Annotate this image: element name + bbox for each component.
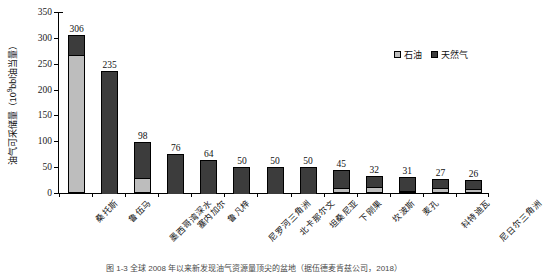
stacked-bar[interactable]: 31 <box>399 177 416 193</box>
x-axis-label: 尼日尔三角洲 <box>497 196 544 244</box>
bar-segment-gas <box>102 72 117 194</box>
stacked-bar[interactable]: 50 <box>300 167 317 193</box>
bar-segment-gas <box>466 181 481 189</box>
x-axis-label: 下刚果 <box>356 196 384 224</box>
y-tick-mark <box>54 167 58 168</box>
x-axis-label: 科特迪瓦 <box>458 196 493 231</box>
y-tick-mark <box>54 12 58 13</box>
y-tick-label: 150 <box>38 110 52 120</box>
legend-swatch-oil-icon <box>394 51 401 58</box>
y-tick-label: 50 <box>43 162 53 172</box>
bar-value-label: 27 <box>436 168 446 178</box>
bar-segment-gas <box>201 161 216 194</box>
bar-value-label: 64 <box>204 149 214 159</box>
stacked-bar[interactable]: 76 <box>167 154 184 193</box>
bar-slot[interactable]: 50 <box>300 167 317 193</box>
bar-segment-oil <box>367 187 382 192</box>
stacked-bar[interactable]: 27 <box>432 179 449 193</box>
x-axis-label: 坎波斯 <box>389 196 417 224</box>
legend-item-oil[interactable]: 石油 <box>394 48 422 61</box>
bar-slot[interactable]: 64 <box>200 160 217 193</box>
y-tick-label: 0 <box>47 188 52 198</box>
bar-segment-gas <box>301 168 316 194</box>
bar-segment-gas <box>234 168 249 194</box>
bar-segment-oil <box>69 55 84 192</box>
bar-slot[interactable]: 31 <box>399 177 416 193</box>
bar-slot[interactable]: 306 <box>68 35 85 193</box>
bar-value-label: 32 <box>369 165 379 175</box>
x-axis-label: 鲁伍马 <box>125 196 153 224</box>
y-axis-title-suffix: bbl油当量） <box>8 41 18 89</box>
bar-segment-gas <box>69 36 84 56</box>
y-tick-mark <box>54 193 58 194</box>
x-axis-label: 麦孔 <box>420 196 442 218</box>
bar-slot[interactable]: 45 <box>333 170 350 193</box>
legend-item-gas[interactable]: 天然气 <box>431 48 468 61</box>
x-axis-label: 鲁凡梓 <box>224 196 252 224</box>
bar-segment-gas <box>400 178 415 191</box>
y-axis-title: 油气可采储量（109bbl油当量） <box>6 41 19 166</box>
bar-slot[interactable]: 27 <box>432 179 449 193</box>
legend-label-oil: 石油 <box>404 48 422 61</box>
y-tick-label: 200 <box>38 85 52 95</box>
bar-value-label: 50 <box>237 156 247 166</box>
bar-value-label: 26 <box>469 169 479 179</box>
bar-value-label: 76 <box>171 143 181 153</box>
y-tick-mark <box>54 141 58 142</box>
y-axis-title-exponent: 9 <box>6 89 13 93</box>
bar-slot[interactable]: 235 <box>101 71 118 193</box>
bar-value-label: 31 <box>403 166 413 176</box>
stacked-bar[interactable]: 32 <box>366 176 383 193</box>
bar-segment-oil <box>135 178 150 192</box>
bar-segment-oil <box>400 191 415 192</box>
stacked-bar[interactable]: 50 <box>233 167 250 193</box>
bar-segment-oil <box>334 188 349 192</box>
y-tick-label: 100 <box>38 136 52 146</box>
bar-slot[interactable]: 50 <box>267 167 284 193</box>
stacked-bar[interactable]: 45 <box>333 170 350 193</box>
legend: 石油 天然气 <box>394 48 468 61</box>
bar-segment-gas <box>433 180 448 188</box>
bar-segment-oil <box>466 189 481 192</box>
bar-value-label: 45 <box>336 159 346 169</box>
bar-slot[interactable]: 26 <box>465 180 482 193</box>
y-tick-mark <box>54 64 58 65</box>
stacked-bar[interactable]: 50 <box>267 167 284 193</box>
x-axis-labels: 桑托斯鲁伍马墨西哥湾深水塞内加尔鲁凡梓尼罗河三角洲北卡那尔文坦桑尼亚下刚果坎波斯… <box>58 196 488 256</box>
legend-swatch-gas-icon <box>431 51 438 58</box>
x-axis-label: 桑托斯 <box>92 196 120 224</box>
stacked-bar[interactable]: 98 <box>134 142 151 193</box>
bar-value-label: 50 <box>270 156 280 166</box>
stacked-bar[interactable]: 306 <box>68 35 85 193</box>
y-tick-label: 350 <box>38 7 52 17</box>
figure-caption: 图 1-3 全球 2008 年以来新发现油气资源量顶尖的盆地（据伍德麦肯兹公司，… <box>0 262 508 272</box>
plot-area: 050100150200250300350 油气可采储量（109bbl油当量） … <box>58 12 488 194</box>
bar-slot[interactable]: 76 <box>167 154 184 193</box>
bar-value-label: 235 <box>102 60 116 70</box>
bar-slot[interactable]: 50 <box>233 167 250 193</box>
x-tick-mark <box>488 193 489 197</box>
bar-segment-gas <box>268 168 283 194</box>
stacked-bar[interactable]: 26 <box>465 180 482 193</box>
y-tick-label: 250 <box>38 59 52 69</box>
y-tick-label: 300 <box>38 33 52 43</box>
legend-label-gas: 天然气 <box>441 48 468 61</box>
bar-value-label: 50 <box>303 156 313 166</box>
bar-value-label: 98 <box>138 131 148 141</box>
stacked-bar[interactable]: 235 <box>101 71 118 193</box>
y-tick-mark <box>54 115 58 116</box>
bar-value-label: 306 <box>69 24 83 34</box>
bar-segment-gas <box>334 171 349 188</box>
bar-segment-gas <box>168 155 183 194</box>
bar-segment-gas <box>367 177 382 186</box>
bar-segment-oil <box>433 188 448 192</box>
bar-group: 3062359876645050504532312726 <box>59 12 488 193</box>
bar-slot[interactable]: 98 <box>134 142 151 193</box>
y-axis-title-prefix: 油气可采储量（10 <box>8 92 18 165</box>
bar-segment-gas <box>135 143 150 178</box>
bar-slot[interactable]: 32 <box>366 176 383 193</box>
stacked-bar[interactable]: 64 <box>200 160 217 193</box>
y-tick-mark <box>54 90 58 91</box>
y-tick-mark <box>54 38 58 39</box>
